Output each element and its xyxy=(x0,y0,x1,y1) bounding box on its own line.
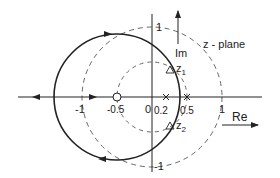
tick-label-origin: 0 xyxy=(145,103,151,115)
zero-marker xyxy=(113,93,121,101)
axis-arrow-left-icon xyxy=(32,94,40,100)
point-z1-label: z1 xyxy=(176,62,187,77)
tick-label-real-02: 0.2 xyxy=(154,105,168,116)
re-axis-label: Re xyxy=(232,110,248,124)
axis-arrow-mid-icon xyxy=(89,94,97,100)
tick-label-real-05: 0.5 xyxy=(180,105,194,116)
tick-label-real-1: 1 xyxy=(219,103,225,115)
tick-label-real-neg05: -0.5 xyxy=(107,104,125,115)
plane-label: z - plane xyxy=(203,38,245,50)
point-z2-label: z2 xyxy=(176,119,187,134)
tick-label-imag-1: 1 xyxy=(156,21,162,33)
im-axis-label: Im xyxy=(175,47,187,59)
tick-label-imag-neg1: -1 xyxy=(154,160,164,172)
tick-label-real-neg1: -1 xyxy=(75,103,85,115)
locus-arrow-top-icon xyxy=(104,31,112,37)
z-plane-diagram: -1 -0.5 0 0.2 0.5 1 1 -1 Im Re z - plane… xyxy=(0,0,280,178)
